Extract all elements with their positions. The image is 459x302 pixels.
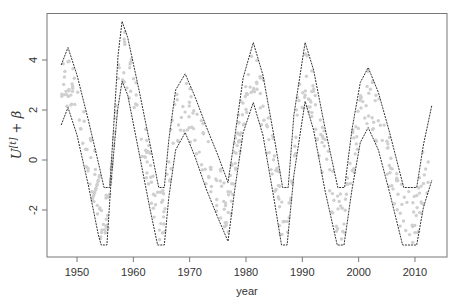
observation-point — [411, 224, 414, 227]
observation-point — [129, 60, 132, 63]
observation-point — [85, 148, 88, 151]
observation-point — [371, 81, 374, 84]
observation-point — [244, 95, 247, 98]
observation-point — [341, 230, 344, 233]
observation-point — [336, 194, 339, 197]
observation-point — [82, 110, 85, 113]
observation-point — [219, 216, 222, 219]
observation-point — [104, 231, 107, 234]
observation-point — [265, 123, 268, 126]
observation-point — [69, 93, 72, 96]
observation-point — [310, 90, 313, 93]
observation-point — [245, 92, 248, 95]
observation-point — [83, 120, 86, 123]
observation-point — [317, 154, 320, 157]
observation-point — [123, 38, 126, 41]
observation-point — [145, 171, 148, 174]
observation-point — [149, 164, 152, 167]
observation-point — [232, 182, 235, 185]
observation-point — [123, 43, 126, 46]
x-tick-label: 1960 — [121, 266, 145, 278]
observation-point — [220, 185, 223, 188]
observation-point — [324, 138, 327, 141]
observation-point — [415, 214, 418, 217]
observation-point — [393, 202, 396, 205]
observation-point — [92, 200, 95, 203]
observation-point — [63, 70, 66, 73]
observation-point — [81, 142, 84, 145]
observation-point — [79, 127, 82, 130]
observation-point — [396, 193, 399, 196]
observation-point — [158, 228, 161, 231]
observation-point — [374, 94, 377, 97]
observation-point — [327, 150, 330, 153]
observation-point — [344, 209, 347, 212]
observation-point — [321, 126, 324, 129]
observation-point — [293, 154, 296, 157]
observation-point — [364, 104, 367, 107]
observation-point — [367, 114, 370, 117]
observation-point — [162, 210, 165, 213]
observation-point — [244, 85, 247, 88]
observation-point — [122, 71, 125, 74]
observation-point — [310, 115, 313, 118]
observation-point — [367, 92, 370, 95]
observation-point — [419, 200, 422, 203]
observation-point — [159, 222, 162, 225]
observation-point — [371, 128, 374, 131]
observation-point — [71, 90, 74, 93]
observation-point — [128, 66, 131, 69]
observation-point — [118, 66, 121, 69]
observation-point — [224, 201, 227, 204]
observation-point — [342, 222, 345, 225]
svg-text:U[t] + β: U[t] + β — [8, 111, 24, 159]
observation-point — [191, 111, 194, 114]
observation-point — [89, 137, 92, 140]
observation-point — [175, 93, 178, 96]
observation-point — [383, 123, 386, 126]
observation-point — [361, 100, 364, 103]
observation-point — [156, 191, 159, 194]
observation-point — [348, 162, 351, 165]
observation-point — [268, 151, 271, 154]
observation-point — [90, 190, 93, 193]
observation-point — [267, 138, 270, 141]
y-axis: -2024 — [27, 57, 47, 215]
observation-point — [418, 211, 421, 214]
x-tick-label: 2000 — [346, 266, 370, 278]
observation-point — [339, 192, 342, 195]
observation-point — [345, 193, 348, 196]
observation-point — [152, 207, 155, 210]
observation-point — [426, 181, 429, 184]
observation-point — [363, 116, 366, 119]
observation-point — [278, 185, 281, 188]
observation-point — [135, 93, 138, 96]
chart: 1950196019701980199020002010 -2024 year … — [0, 0, 459, 302]
observation-point — [135, 103, 138, 106]
observation-point — [140, 137, 143, 140]
observation-point — [356, 110, 359, 113]
observation-point — [227, 211, 230, 214]
observation-point — [146, 160, 149, 163]
observation-point — [319, 133, 322, 136]
observation-point — [227, 193, 230, 196]
y-tick-label: 0 — [27, 157, 39, 163]
observation-point — [192, 127, 195, 130]
observation-point — [293, 145, 296, 148]
observation-point — [60, 95, 63, 98]
observation-point — [294, 136, 297, 139]
observation-point — [372, 121, 375, 124]
observation-point — [331, 192, 334, 195]
observation-point — [296, 113, 299, 116]
observation-point — [300, 106, 303, 109]
observation-point — [314, 128, 317, 131]
x-axis: 1950196019701980199020002010 — [65, 257, 427, 278]
observation-point — [311, 84, 314, 87]
observation-point — [280, 200, 283, 203]
observation-point — [145, 176, 148, 179]
observation-point — [234, 166, 237, 169]
observation-point — [399, 224, 402, 227]
observation-point — [133, 106, 136, 109]
observation-point — [242, 123, 245, 126]
observation-point — [330, 210, 333, 213]
